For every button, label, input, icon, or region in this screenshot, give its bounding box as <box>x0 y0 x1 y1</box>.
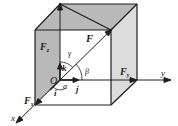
y-axis-label: y <box>160 68 165 78</box>
unit-k-label: k <box>62 63 67 73</box>
x-axis-label: x <box>10 113 15 123</box>
unit-j-label: j <box>74 84 79 94</box>
origin-label: O <box>50 75 57 86</box>
alpha-label: α <box>63 82 68 91</box>
gamma-label: γ <box>68 49 72 58</box>
beta-label: β <box>84 67 89 76</box>
force-decomposition-diagram: F Fz Fy Fx O k j i α β γ y x <box>0 0 178 126</box>
force-x-label: Fx <box>23 95 34 107</box>
force-label: F <box>85 32 94 44</box>
